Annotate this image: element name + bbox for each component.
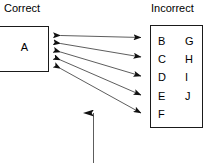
- connector-a-to-b: [61, 36, 142, 38]
- connector-a-to-c: [61, 44, 142, 58]
- connector-a-to-f: [61, 69, 142, 114]
- diagram-canvas: Correct Incorrect A B C D E F G H I J: [0, 0, 218, 163]
- connector-a-to-e: [61, 60, 142, 95]
- connector-arrows: [0, 0, 218, 163]
- connector-a-to-d: [61, 52, 142, 76]
